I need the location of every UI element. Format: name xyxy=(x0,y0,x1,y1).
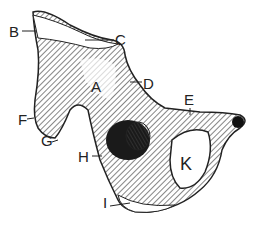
label-f: F xyxy=(18,112,27,127)
label-d: D xyxy=(143,76,154,91)
label-b: B xyxy=(9,24,19,39)
hip-bone-diagram: A B C D E F G H I K xyxy=(0,0,255,231)
bone-drawing xyxy=(0,0,255,231)
label-h: H xyxy=(78,149,89,164)
label-e: E xyxy=(184,92,194,107)
label-a: A xyxy=(91,79,101,94)
label-c: C xyxy=(115,32,126,47)
label-g: G xyxy=(41,133,53,148)
label-k: K xyxy=(180,155,192,173)
label-i: I xyxy=(103,195,107,210)
